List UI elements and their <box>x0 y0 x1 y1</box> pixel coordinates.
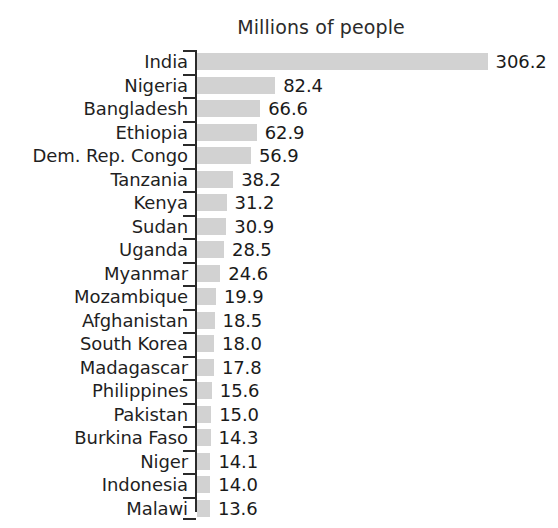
category-label: Dem. Rep. Congo <box>0 144 188 168</box>
bar-value-label: 14.1 <box>218 450 258 474</box>
axis-tick <box>183 426 196 428</box>
bar <box>197 453 210 470</box>
bar-row: Myanmar24.6 <box>0 262 558 286</box>
axis-tick <box>183 473 196 475</box>
axis-tick <box>183 262 196 264</box>
category-label: Uganda <box>0 238 188 262</box>
axis-tick <box>183 144 196 146</box>
axis-tick <box>183 518 196 520</box>
category-label: Pakistan <box>0 403 188 427</box>
category-label: Philippines <box>0 379 188 403</box>
bar-row: Afghanistan18.5 <box>0 309 558 333</box>
bar <box>197 265 220 282</box>
bar-value-label: 13.6 <box>218 497 258 521</box>
bar <box>197 147 251 164</box>
bar-value-label: 24.6 <box>228 262 268 286</box>
axis-tick <box>183 121 196 123</box>
axis-tick <box>183 74 196 76</box>
category-label: Afghanistan <box>0 309 188 333</box>
bar-row: Madagascar17.8 <box>0 356 558 380</box>
bar-row: Mozambique19.9 <box>0 285 558 309</box>
bar-row: Kenya31.2 <box>0 191 558 215</box>
category-label: Mozambique <box>0 285 188 309</box>
bar-value-label: 14.3 <box>219 426 259 450</box>
chart-title: Millions of people <box>196 16 446 38</box>
bar-row: Dem. Rep. Congo56.9 <box>0 144 558 168</box>
bar-value-label: 306.2 <box>496 50 547 74</box>
axis-tick <box>183 50 196 52</box>
bar-value-label: 18.0 <box>222 332 262 356</box>
bar-value-label: 30.9 <box>234 215 274 239</box>
bar-value-label: 15.6 <box>220 379 260 403</box>
bar <box>197 77 275 94</box>
bar-value-label: 62.9 <box>265 121 305 145</box>
axis-tick <box>183 97 196 99</box>
axis-tick <box>183 168 196 170</box>
bar-row: Niger14.1 <box>0 450 558 474</box>
axis-tick <box>183 285 196 287</box>
axis-tick <box>183 403 196 405</box>
category-label: India <box>0 50 188 74</box>
bar <box>197 429 211 446</box>
bar <box>197 335 214 352</box>
bar <box>197 171 233 188</box>
bar <box>197 100 260 117</box>
bar-value-label: 82.4 <box>283 74 323 98</box>
category-label: Burkina Faso <box>0 426 188 450</box>
category-label: South Korea <box>0 332 188 356</box>
axis-tick <box>183 450 196 452</box>
bar <box>197 500 210 517</box>
bar-row: Burkina Faso14.3 <box>0 426 558 450</box>
category-label: Myanmar <box>0 262 188 286</box>
category-label: Madagascar <box>0 356 188 380</box>
bar-row: Uganda28.5 <box>0 238 558 262</box>
bar <box>197 476 210 493</box>
category-label: Kenya <box>0 191 188 215</box>
category-label: Indonesia <box>0 473 188 497</box>
category-label: Bangladesh <box>0 97 188 121</box>
bar-row: Sudan30.9 <box>0 215 558 239</box>
bar-value-label: 14.0 <box>218 473 258 497</box>
bar-chart: Millions of people India306.2Nigeria82.4… <box>0 0 558 528</box>
bar-value-label: 28.5 <box>232 238 272 262</box>
bar-row: Malawi13.6 <box>0 497 558 521</box>
bar-row: Philippines15.6 <box>0 379 558 403</box>
bar-value-label: 15.0 <box>219 403 259 427</box>
category-label: Niger <box>0 450 188 474</box>
bar-row: Ethiopia62.9 <box>0 121 558 145</box>
category-label: Ethiopia <box>0 121 188 145</box>
bar-value-label: 17.8 <box>222 356 262 380</box>
bar <box>197 53 488 70</box>
bar-value-label: 56.9 <box>259 144 299 168</box>
bar <box>197 241 224 258</box>
bar <box>197 194 227 211</box>
axis-tick <box>183 215 196 217</box>
axis-tick <box>183 356 196 358</box>
bar-row: Pakistan15.0 <box>0 403 558 427</box>
bar-row: India306.2 <box>0 50 558 74</box>
bar <box>197 359 214 376</box>
bar <box>197 406 211 423</box>
bar <box>197 218 226 235</box>
bar-value-label: 66.6 <box>268 97 308 121</box>
axis-tick <box>183 497 196 499</box>
bar-value-label: 31.2 <box>235 191 275 215</box>
category-label: Malawi <box>0 497 188 521</box>
category-label: Tanzania <box>0 168 188 192</box>
bar-value-label: 38.2 <box>241 168 281 192</box>
category-label: Nigeria <box>0 74 188 98</box>
bar <box>197 312 215 329</box>
bar-row: South Korea18.0 <box>0 332 558 356</box>
category-label: Sudan <box>0 215 188 239</box>
axis-tick <box>183 309 196 311</box>
bar <box>197 124 257 141</box>
bar <box>197 382 212 399</box>
axis-tick <box>183 332 196 334</box>
axis-tick <box>183 379 196 381</box>
axis-tick <box>183 238 196 240</box>
bar-row: Nigeria82.4 <box>0 74 558 98</box>
bar-row: Indonesia14.0 <box>0 473 558 497</box>
bar-row: Bangladesh66.6 <box>0 97 558 121</box>
axis-tick <box>183 191 196 193</box>
bar <box>197 288 216 305</box>
